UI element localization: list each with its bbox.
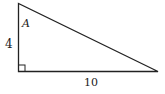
angle-label-a: A xyxy=(21,17,30,30)
vertical-side-label: 4 xyxy=(5,37,13,51)
right-angle-marker xyxy=(19,65,26,72)
horizontal-side-label: 10 xyxy=(84,76,98,89)
triangle-shape xyxy=(19,4,159,72)
right-triangle-diagram: A 4 10 xyxy=(0,0,165,94)
